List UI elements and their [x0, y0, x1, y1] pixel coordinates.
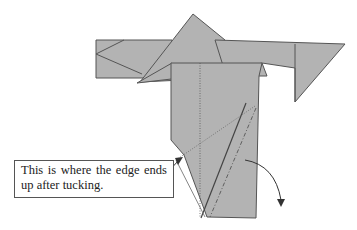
- main-body: [171, 63, 262, 218]
- arrowhead-icon: [277, 199, 285, 207]
- callout-text: This is where the edge ends up after tuc…: [21, 163, 167, 192]
- callout-box: This is where the edge ends up after tuc…: [14, 160, 174, 198]
